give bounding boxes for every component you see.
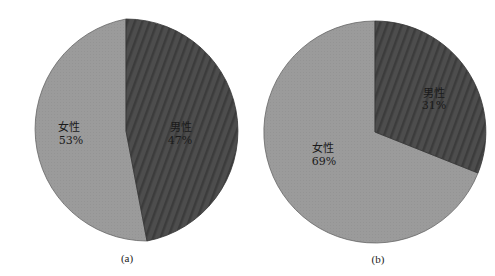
pie-b-female-pct: 69%	[312, 155, 336, 168]
pie-a-female-name: 女性	[58, 120, 80, 134]
pie-a-caption: (a)	[121, 252, 134, 265]
pie-chart-b: 女性 69% 男性 31% (b)	[264, 21, 486, 266]
pie-b-caption: (b)	[372, 253, 385, 266]
pie-charts-figure: 女性 53% 男性 47% (a) 女性 69% 男性 31% (b)	[0, 0, 495, 276]
pie-a-male-pct: 47%	[168, 134, 192, 147]
pie-chart-a: 女性 53% 男性 47% (a)	[35, 19, 238, 265]
pie-b-male-name: 男性	[423, 86, 445, 100]
pie-a-female-pct: 53%	[59, 134, 83, 147]
pie-a-male-name: 男性	[170, 120, 192, 134]
pie-b-male-pct: 31%	[422, 99, 446, 112]
pie-b-female-name: 女性	[312, 141, 334, 155]
